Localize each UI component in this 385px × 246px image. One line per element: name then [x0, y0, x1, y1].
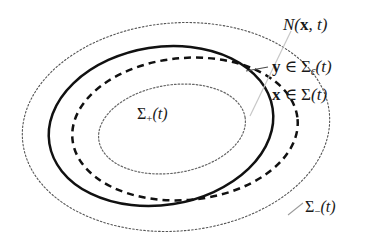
label-neighborhood-comma: , — [309, 15, 318, 34]
label-neighborhood-arg-x: x — [300, 15, 309, 34]
label-neighborhood: N(x, t) — [283, 16, 327, 33]
label-x-membership: x∈Σ(t) — [272, 86, 327, 103]
label-y-member-symbol: ∈ — [285, 57, 298, 76]
label-x-member-symbol: ∈ — [285, 85, 298, 104]
label-sigma-minus-close-paren: ) — [330, 198, 335, 215]
inner-dotted-ellipse — [92, 74, 252, 184]
dashed-ellipse — [66, 48, 304, 209]
label-x-point: x — [272, 85, 281, 104]
label-sigma-plus: Σ+(t) — [137, 106, 168, 124]
label-sigma-minus: Σ−(t) — [305, 199, 336, 217]
label-neighborhood-function: N — [283, 15, 294, 34]
label-sigma-plus-set: Σ — [137, 105, 146, 122]
label-x-close-paren: ) — [321, 85, 327, 104]
label-sigma-minus-set: Σ — [305, 198, 314, 215]
label-y-close-paren: ) — [326, 57, 332, 76]
label-sigma-plus-close-paren: ) — [162, 105, 167, 122]
label-x-set: Σ — [301, 85, 311, 104]
label-y-membership: y∈Σε(t) — [272, 58, 332, 78]
leader-tick-sigma-minus — [288, 203, 303, 215]
level-set-diagram: N(x, t) y∈Σε(t) x∈Σ(t) Σ+(t) Σ−(t) — [0, 0, 385, 246]
label-y-point: y — [272, 57, 281, 76]
label-y-set: Σ — [301, 57, 311, 76]
label-neighborhood-close-paren: ) — [322, 15, 328, 34]
